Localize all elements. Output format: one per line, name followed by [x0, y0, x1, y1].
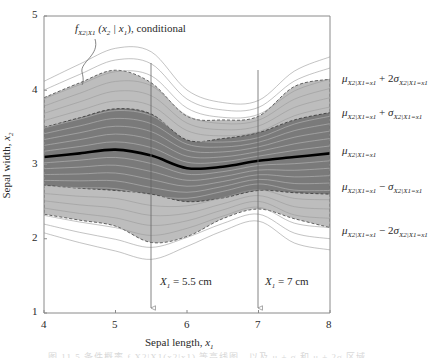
- conditional-density-label: fX2|X1 (x2 | x1), conditional: [75, 22, 186, 37]
- legend-mu-minus-sigma: μX2|X1=x1 − σX2|X1=x1: [342, 180, 422, 195]
- legend-mu: μX2|X1=x1: [342, 144, 376, 159]
- x-tick-8: 8: [326, 318, 332, 330]
- legend-mu-minus-2sigma: μX2|X1=x1 − 2σX2|X1=x1: [342, 224, 428, 239]
- cut-label-7: X1 = 7 cm: [265, 275, 309, 290]
- y-tick-3: 3: [32, 157, 38, 169]
- x-tick-7: 7: [255, 318, 261, 330]
- x-tick-4: 4: [41, 318, 47, 330]
- y-tick-5: 5: [32, 8, 38, 20]
- x-tick-5: 5: [112, 318, 118, 330]
- y-axis-label: Sepal width, x2: [0, 132, 15, 198]
- figure-caption: 图 11.5 条件概率 f X2|X1(x2|x1) 等高线图，以及 μ ± σ…: [48, 350, 388, 358]
- x-tick-6: 6: [184, 318, 190, 330]
- y-tick-1: 1: [32, 305, 38, 317]
- legend-mu-plus-2sigma: μX2|X1=x1 + 2σX2|X1=x1: [342, 72, 428, 87]
- cut-label-5-5: X1 = 5.5 cm: [160, 275, 212, 290]
- x-axis-label: Sepal length, x1: [145, 336, 214, 351]
- y-tick-2: 2: [32, 231, 38, 243]
- legend-mu-plus-sigma: μX2|X1=x1 + σX2|X1=x1: [342, 106, 422, 121]
- y-tick-4: 4: [32, 83, 38, 95]
